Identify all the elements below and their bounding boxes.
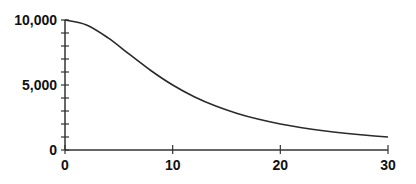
x-tick-label: 30 [380,157,396,173]
x-tick-label: 20 [273,157,289,173]
axes [65,20,388,150]
y-tick-label: 10,000 [14,12,57,28]
y-tick-label: 5,000 [22,77,57,93]
x-tick-label: 10 [165,157,181,173]
y-tick-label: 0 [49,142,57,158]
tick-labels: 05,00010,0000102030 [14,12,396,173]
data-line [65,20,388,137]
line-chart: 05,00010,0000102030 [0,0,416,184]
x-tick-label: 0 [61,157,69,173]
